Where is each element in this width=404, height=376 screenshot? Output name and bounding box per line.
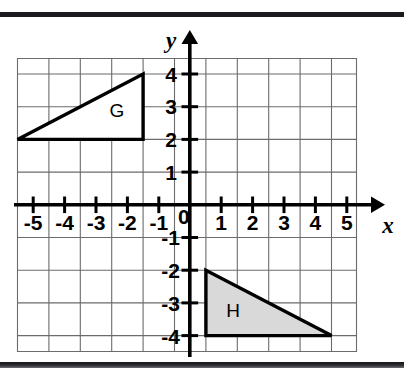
y-axis-label: y: [163, 28, 177, 53]
x-tick-label: 3: [278, 211, 290, 234]
y-tick-label: 4: [165, 63, 177, 86]
y-tick-label: -2: [161, 259, 180, 282]
figure-canvas: H G: [0, 0, 404, 376]
x-axis-label: x: [381, 213, 394, 238]
y-axis-arrowhead: [182, 30, 199, 44]
x-tick-label: -4: [55, 211, 74, 234]
y-tick-label: -3: [161, 292, 180, 315]
x-tick-label: 1: [215, 211, 227, 234]
coordinate-plane: H G: [0, 0, 404, 376]
x-tick-label: 2: [247, 211, 259, 234]
x-tick-label: 4: [310, 211, 322, 234]
x-axis-arrowhead: [371, 197, 385, 214]
y-tick-label: -4: [161, 325, 180, 348]
y-tick-label: -1: [161, 226, 180, 249]
triangle-g-label: G: [110, 100, 125, 121]
y-tick-label: 3: [165, 95, 177, 118]
origin-label: 0: [178, 205, 190, 228]
x-tick-label: -3: [87, 211, 106, 234]
y-tick-label: 1: [165, 161, 177, 184]
triangle-h-label: H: [226, 300, 240, 321]
y-tick-label: 2: [165, 128, 177, 151]
x-tick-label: -5: [24, 211, 43, 234]
axes: [14, 40, 371, 357]
x-tick-label: 5: [341, 211, 353, 234]
x-tick-label: -2: [118, 211, 137, 234]
